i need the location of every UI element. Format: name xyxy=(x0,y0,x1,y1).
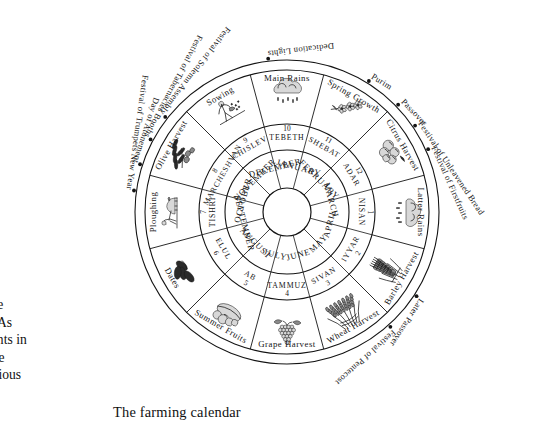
hebrew-month-number-5: 5 xyxy=(242,278,250,288)
hebrew-month-elul: ELUL xyxy=(214,236,234,261)
wheel-hub xyxy=(263,188,311,236)
festival-purim: Purim xyxy=(367,71,394,91)
festival-purim-marker xyxy=(367,79,371,83)
figure-caption: The farming calendar xyxy=(113,404,241,421)
hebrew-month-number-2: 2 xyxy=(353,249,363,257)
festival-passover-marker xyxy=(396,103,400,107)
festival-purim-label: Purim xyxy=(370,71,394,91)
hebrew-month-number-8: 8 xyxy=(210,166,220,174)
hebrew-month-number-7: 7 xyxy=(199,210,208,214)
hebrew-month-number-1: 1 xyxy=(366,210,375,214)
gregorian-month-june: JUNE xyxy=(285,246,311,262)
festival-dedication-lights: Dedication Lights xyxy=(266,41,334,60)
activity-label-main-rains: Main Rains xyxy=(264,73,310,83)
hebrew-month-number-10: 10 xyxy=(283,124,291,133)
hebrew-month-number-3: 3 xyxy=(324,278,332,288)
ploughing-oxen-icon xyxy=(162,197,177,228)
hebrew-month-number-6: 6 xyxy=(211,249,221,257)
festival-festival-of-unleavened-bread-marker xyxy=(413,124,417,128)
activity-label-latter-rains: Latter Rains xyxy=(416,187,426,236)
activity-label-barley-harvest: Barley Harvest xyxy=(382,249,421,306)
hebrew-month-number-9: 9 xyxy=(241,135,249,145)
festival-dedication-lights-label: Dedication Lights xyxy=(267,41,335,59)
hebrew-month-tebeth: TEBETH xyxy=(269,133,304,142)
activity-label-grape-harvest: Grape Harvest xyxy=(258,339,316,349)
festival-later-passover-marker xyxy=(415,294,419,298)
festival-festival-of-pentecost-marker xyxy=(388,325,392,329)
festival-festival-of-firstfruits-marker xyxy=(426,147,430,151)
body-paragraph: s the ne. As events in were eligious xyxy=(0,296,96,384)
hebrew-month-number-4: 4 xyxy=(285,289,289,298)
hebrew-month-nisan: NISAN xyxy=(357,198,366,226)
festival-festival-of-trumpets-new-year-marker xyxy=(132,189,136,193)
activity-label-ploughing: Ploughing xyxy=(148,192,158,233)
farming-calendar-figure: JANUARYFEBRUARYMARCHAPRILMAYJUNEJULYAUGU… xyxy=(0,0,536,445)
gregorian-month-december: DECEMBER xyxy=(248,156,303,180)
festival-dedication-lights-marker xyxy=(266,57,270,61)
